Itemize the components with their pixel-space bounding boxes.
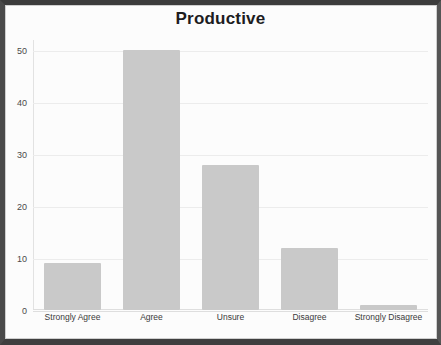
bar-rect [281, 248, 338, 310]
y-axis-tick-label: 30 [17, 150, 27, 160]
bar-rect [123, 50, 180, 310]
bar-chart: Productive 01020304050 Strongly AgreeAgr… [0, 0, 441, 345]
bar-item: Agree [123, 40, 180, 310]
screenshot-root: Productive 01020304050 Strongly AgreeAgr… [0, 0, 441, 345]
y-axis-tick-label: 0 [22, 306, 27, 316]
bar-item: Unsure [202, 40, 259, 310]
x-axis-tick-label: Strongly Agree [45, 312, 101, 322]
bar-rect [44, 263, 101, 310]
y-axis-tick-label: 40 [17, 98, 27, 108]
y-axis-tick-label: 50 [17, 46, 27, 56]
y-axis-tick-label: 20 [17, 202, 27, 212]
bars-group: Strongly AgreeAgreeUnsureDisagreeStrongl… [33, 40, 428, 310]
y-axis-tick-label: 10 [17, 254, 27, 264]
bar-item: Disagree [281, 40, 338, 310]
bar-rect [202, 165, 259, 310]
bar-item: Strongly Disagree [360, 40, 417, 310]
plot-area: 01020304050 Strongly AgreeAgreeUnsureDis… [33, 40, 428, 312]
bar-item: Strongly Agree [44, 40, 101, 310]
x-axis-tick-label: Unsure [217, 312, 244, 322]
x-axis-tick-label: Disagree [292, 312, 326, 322]
chart-title: Productive [0, 9, 441, 29]
x-axis-tick-label: Agree [140, 312, 163, 322]
bar-rect [360, 305, 417, 310]
x-axis-tick-label: Strongly Disagree [355, 312, 423, 322]
